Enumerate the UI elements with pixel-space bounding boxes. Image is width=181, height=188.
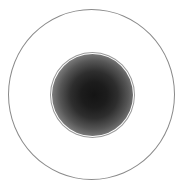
inner-gradient-disc <box>52 54 133 136</box>
diagram-canvas <box>0 0 181 188</box>
